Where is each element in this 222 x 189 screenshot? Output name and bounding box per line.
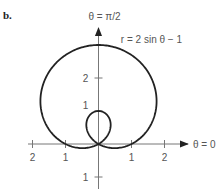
y-tick-label: 1 xyxy=(83,172,89,183)
x-tick-label: 1 xyxy=(129,152,135,163)
equation-label: r = 2 sin θ − 1 xyxy=(121,34,183,45)
x-tick-label: 1 xyxy=(63,152,69,163)
x-tick-label: 2 xyxy=(30,152,36,163)
axis-labels: 2112112θ = π/2θ = 0r = 2 sin θ − 1 xyxy=(30,11,216,183)
polar-axis-label: θ = 0 xyxy=(193,139,216,150)
x-tick-label: 2 xyxy=(162,152,168,163)
polar-plot: 2112112θ = π/2θ = 0r = 2 sin θ − 1 xyxy=(0,0,222,189)
y-tick-label: 1 xyxy=(83,100,89,111)
vertical-axis-label: θ = π/2 xyxy=(88,11,121,22)
axes xyxy=(28,28,188,189)
y-tick-label: 2 xyxy=(83,73,89,84)
